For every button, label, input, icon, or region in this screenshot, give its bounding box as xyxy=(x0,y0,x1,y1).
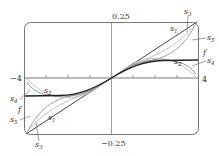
chart: 0.25 −0.25 −4 4 s3 s1 s5 f s4 s2 s2 s4 f… xyxy=(0,0,219,156)
x-max-label: 4 xyxy=(202,75,207,84)
label-f-left: f xyxy=(17,105,23,114)
label-s5-right: s5 xyxy=(207,33,215,43)
label-s1-top: s1 xyxy=(170,24,178,34)
label-s5-left: s5 xyxy=(10,115,18,125)
y-max-label: 0.25 xyxy=(112,12,130,21)
label-s1-left: s1 xyxy=(48,113,56,123)
label-s4-left: s4 xyxy=(10,94,18,104)
label-s2-right: s2 xyxy=(174,57,182,67)
x-min-label: −4 xyxy=(10,74,22,83)
label-s4-right: s4 xyxy=(207,56,215,66)
label-s3-top: s3 xyxy=(184,7,192,17)
label-s2-left: s2 xyxy=(44,86,52,96)
y-min-label: −0.25 xyxy=(101,139,126,148)
label-s3-bottom: s3 xyxy=(35,140,43,150)
